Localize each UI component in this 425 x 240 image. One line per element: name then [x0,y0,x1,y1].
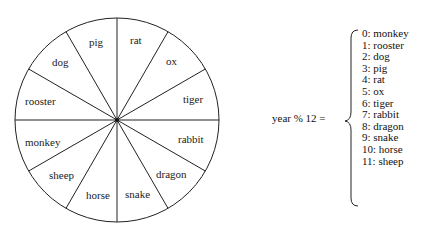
segment-label: monkey [25,136,61,148]
wheel-center-dot [115,118,119,122]
mapping-list: 0: monkey 1: rooster 2: dog 3: pig 4: ra… [362,28,409,167]
mapping-item: 11: sheep [362,156,409,168]
mapping-item: 10: horse [362,144,409,156]
segment-label: dog [52,56,69,68]
segment-label: snake [125,188,150,200]
segment-label: sheep [49,169,75,181]
segment-label: pig [89,36,104,48]
curly-brace [345,30,358,206]
segment-label: rat [130,34,142,46]
segment-label: ox [166,55,178,67]
mapping-item: 7: rabbit [362,109,409,121]
segment-label: dragon [156,168,187,180]
segment-label: rabbit [178,133,204,145]
segment-label: rooster [25,95,56,107]
formula-label: year % 12 = [272,112,326,124]
mapping-item: 0: monkey [362,28,409,40]
segment-label: horse [86,189,110,201]
segment-label: tiger [183,93,203,105]
mapping-item: 5: ox [362,86,409,98]
